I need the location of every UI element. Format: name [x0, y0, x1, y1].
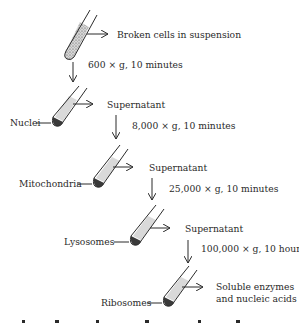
- centrifugation-diagram: Broken cells in suspension 600 × g, 10 m…: [0, 0, 299, 323]
- pellet-label-ribosomes: Ribosomes: [101, 297, 152, 308]
- condition-3: 25,000 × g, 10 minutes: [169, 183, 279, 194]
- tube-broken-cells: [65, 10, 97, 60]
- supernatant-label-1: Supernatant: [107, 99, 165, 110]
- tube-nuclei: [52, 86, 87, 126]
- pellet-label-nuclei: Nuclei: [10, 117, 40, 128]
- pellet-label-lysosomes: Lysosomes: [64, 236, 115, 247]
- suspension-fill: [65, 22, 89, 60]
- supernatant-label-2: Supernatant: [149, 162, 207, 173]
- final-supernatant-line-2: and nucleic acids: [216, 293, 297, 304]
- tube-lysosomes: [130, 205, 164, 245]
- condition-1: 600 × g, 10 minutes: [88, 59, 183, 70]
- condition-2: 8,000 × g, 10 minutes: [132, 120, 236, 131]
- final-supernatant-line-1: Soluble enzymes: [216, 281, 294, 292]
- tube-ribosomes: [163, 266, 197, 306]
- tube-mitochondria: [93, 145, 128, 187]
- supernatant-label-3: Supernatant: [185, 223, 243, 234]
- condition-4: 100,000 × g, 10 hours: [201, 243, 299, 254]
- pellet-label-mitochondria: Mitochondria: [19, 178, 82, 189]
- broken-cells-label: Broken cells in suspension: [117, 29, 241, 40]
